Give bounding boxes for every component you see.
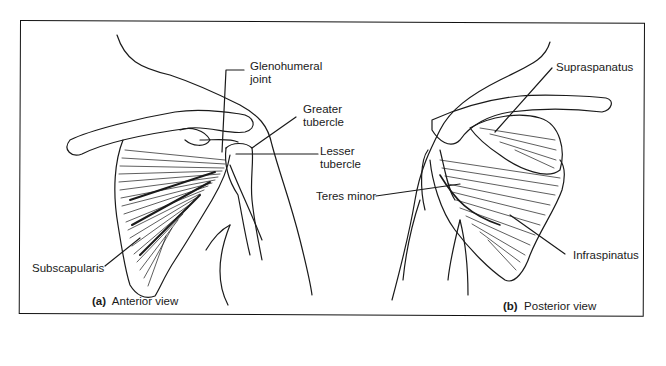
label-line: Lesser	[320, 145, 361, 158]
caption-letter: (a)	[92, 295, 106, 307]
leader-greater-tubercle	[252, 117, 296, 148]
label-glenohumeral-joint: Glenohumeral joint	[250, 60, 322, 86]
label-line: Glenohumeral	[250, 60, 322, 73]
caption-text: Anterior view	[112, 295, 178, 307]
caption-anterior-view: (a) Anterior view	[92, 295, 178, 307]
label-lesser-tubercle: Lesser tubercle	[320, 145, 361, 171]
label-line: joint	[250, 73, 322, 86]
label-infraspinatus: Infraspinatus	[573, 249, 639, 262]
label-line: tubercle	[320, 158, 361, 171]
caption-letter: (b)	[503, 300, 518, 312]
leader-subscapularis	[105, 238, 140, 266]
caption-posterior-view: (b) Posterior view	[503, 300, 596, 312]
label-teres-minor: Teres minor	[316, 190, 376, 203]
caption-text: Posterior view	[524, 300, 596, 312]
label-subscapularis: Subscapularis	[32, 262, 104, 275]
leader-infraspinatus	[510, 215, 565, 254]
label-greater-tubercle: Greater tubercle	[303, 103, 344, 129]
label-line: Greater	[303, 103, 344, 116]
label-supraspinatus: Supraspanatus	[556, 61, 633, 74]
label-line: tubercle	[303, 116, 344, 129]
